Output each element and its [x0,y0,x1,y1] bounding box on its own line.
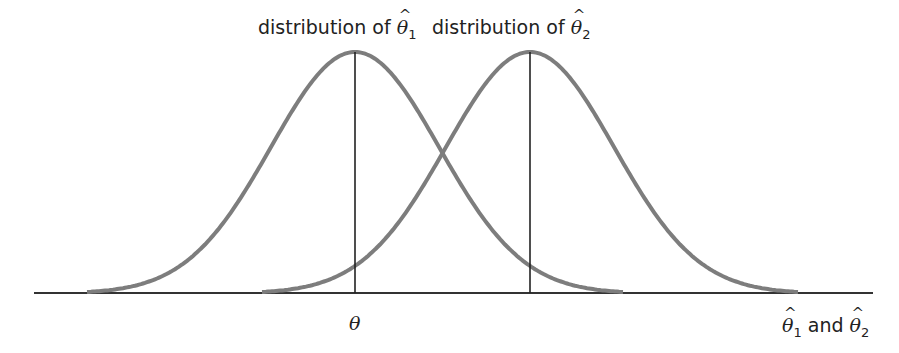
subscript: 1 [793,325,801,340]
hat-accent: ^ [852,306,865,321]
theta-hat-symbol: θ^ [782,316,793,335]
estimator-distribution-diagram [0,0,899,353]
theta-hat-symbol: θ^ [571,18,582,37]
theta-hat-symbol: θ^ [850,316,861,335]
hat-accent: ^ [784,306,797,321]
label-theta-true-value: θ [349,314,360,333]
subscript: 1 [408,27,416,42]
hat-accent: ^ [573,8,586,23]
label-text: distribution of [258,16,397,38]
theta-hat-symbol: θ^ [397,18,408,37]
label-distribution-theta-hat-1: distribution of θ^1 [258,18,416,37]
theta-glyph: θ [349,314,360,333]
axis-label-theta-hats: θ^1 and θ^2 [782,316,869,335]
label-distribution-theta-hat-2: distribution of θ^2 [432,18,590,37]
label-text: distribution of [432,16,571,38]
hat-accent: ^ [399,8,412,23]
label-text: and [802,314,850,336]
subscript: 2 [861,325,869,340]
subscript: 2 [582,27,590,42]
